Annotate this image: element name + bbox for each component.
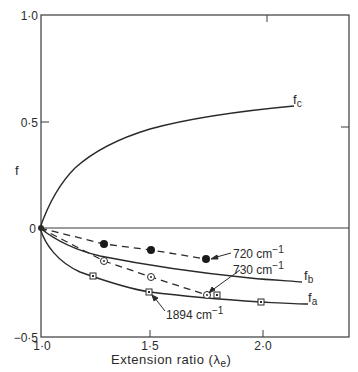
y-axis-label: f (15, 163, 19, 178)
label-fb: fb (304, 268, 314, 285)
annotation-730: 730 cm−1 (233, 260, 284, 277)
curve-fc (40, 106, 294, 228)
plot-frame (41, 15, 349, 337)
markers-1894-dots (92, 275, 262, 303)
annotation-1894: 1894 cm−1 (166, 305, 224, 322)
label-fc: fc (293, 92, 302, 109)
x-ticks (150, 15, 267, 337)
x-tick-label: 1·5 (141, 339, 159, 353)
x-tick-label: 2·0 (254, 339, 272, 353)
label-fa: fa (308, 290, 318, 307)
y-ticks (41, 122, 349, 127)
origin-marker (38, 225, 44, 231)
y-tick-label: 0 (29, 222, 36, 236)
x-axis-label: Extension ratio (λe) (111, 352, 231, 369)
x-tick-label: 1·0 (33, 339, 51, 353)
annotation-720: 720 cm−1 (233, 244, 284, 261)
chart-canvas: 1·0 0·5 0 −0·5 f 1·0 1·5 2·0 Extension r… (0, 0, 358, 372)
y-tick-label: 1·0 (21, 9, 39, 23)
curve-730 (40, 228, 207, 295)
y-tick-label: 0·5 (21, 116, 39, 130)
